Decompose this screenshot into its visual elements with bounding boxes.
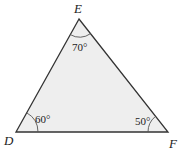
triangle-diagram: E 70° D 60° F 50°	[0, 0, 178, 154]
triangle-svg: E 70° D 60° F 50°	[0, 0, 178, 154]
vertex-label-e: E	[73, 1, 82, 16]
vertex-label-f: F	[168, 136, 178, 151]
vertex-label-d: D	[3, 133, 14, 148]
angle-label-f: 50°	[135, 115, 150, 127]
angle-label-d: 60°	[35, 113, 50, 125]
angle-label-e: 70°	[72, 41, 87, 53]
